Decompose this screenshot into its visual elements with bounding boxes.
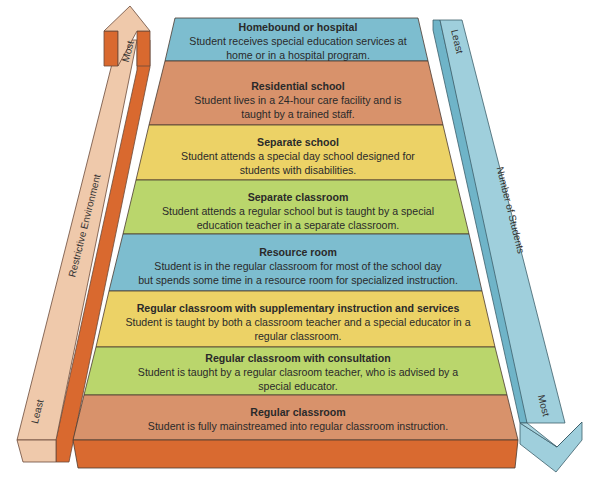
layer-title: Regular classroom with consultation bbox=[100, 351, 496, 365]
left-arrow-tab-right bbox=[137, 31, 150, 66]
layer-desc: regular classroom. bbox=[108, 329, 488, 343]
layer-desc: students with disabilities. bbox=[150, 163, 446, 177]
layer-title: Resource room bbox=[120, 245, 476, 259]
left-arrow-tab-left bbox=[104, 31, 118, 66]
layer-title: Homebound or hospital bbox=[175, 20, 421, 34]
layer-desc: Student receives special education servi… bbox=[175, 34, 421, 48]
layer-desc: but spends some time in a resource room … bbox=[120, 273, 476, 287]
layer-resource-room: Resource room Student is in the regular … bbox=[120, 245, 476, 287]
layer-desc: Student lives in a 24-hour care facility… bbox=[160, 93, 436, 107]
pyramid-base bbox=[73, 440, 518, 468]
layer-supplementary-instruction: Regular classroom with supplementary ins… bbox=[108, 301, 488, 343]
layer-title: Separate school bbox=[150, 135, 446, 149]
layer-desc: home or in a hospital program. bbox=[175, 48, 421, 62]
layer-desc: education teacher in a separate classroo… bbox=[136, 218, 460, 232]
continuum-diagram: Homebound or hospital Student receives s… bbox=[0, 0, 596, 485]
layer-residential-school: Residential school Student lives in a 24… bbox=[160, 79, 436, 121]
layer-desc: Student attends a regular school but is … bbox=[136, 204, 460, 218]
layer-homebound: Homebound or hospital Student receives s… bbox=[175, 20, 421, 62]
layer-desc: special educator. bbox=[100, 379, 496, 393]
layer-title: Regular classroom with supplementary ins… bbox=[108, 301, 488, 315]
layer-desc: Student attends a special day school des… bbox=[150, 149, 446, 163]
layer-desc: Student is taught by a regular clasroom … bbox=[100, 365, 496, 379]
layer-desc: Student is fully mainstreamed into regul… bbox=[90, 419, 506, 433]
layer-desc: Student is taught by both a classroom te… bbox=[108, 315, 488, 329]
layer-consultation: Regular classroom with consultation Stud… bbox=[100, 351, 496, 393]
layer-separate-school: Separate school Student attends a specia… bbox=[150, 135, 446, 177]
layer-desc: Student is in the regular classroom for … bbox=[120, 259, 476, 273]
layer-title: Residential school bbox=[160, 79, 436, 93]
layer-title: Separate classroom bbox=[136, 190, 460, 204]
left-arrow-bottom-face bbox=[17, 440, 56, 462]
layer-regular-classroom: Regular classroom Student is fully mains… bbox=[90, 405, 506, 433]
layer-desc: taught by a trained staff. bbox=[160, 107, 436, 121]
layer-title: Regular classroom bbox=[90, 405, 506, 419]
layer-separate-classroom: Separate classroom Student attends a reg… bbox=[136, 190, 460, 232]
